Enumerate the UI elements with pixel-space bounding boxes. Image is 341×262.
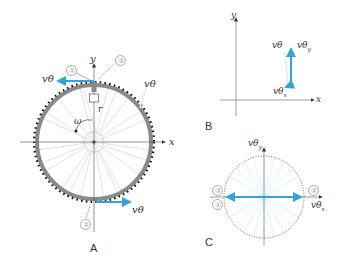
v-bottom-label: vθ [132,204,144,215]
c-marker-1: ① [212,199,223,210]
c-marker-3: ③ [212,185,223,196]
v-right-faint-vector [140,88,146,108]
b-v-label: vθ [272,40,283,50]
figure-canvas [0,0,341,262]
c-vy-label: vθy [248,138,262,150]
panel-b-components [220,18,314,116]
panel-a-label: A [90,242,97,254]
marker-2-leader [86,206,90,218]
marker-2: ② [80,219,91,230]
c-vx-label: vθx [311,200,325,212]
panel-c-label: C [205,236,213,248]
v-top-right-label: vθ [144,78,156,89]
b-v-resultant [285,52,288,85]
radius-box [90,94,99,102]
panel-b-label: B [205,120,212,132]
panel-c-projection [210,148,322,246]
b-x-axis-label: x [316,94,321,104]
marker-1-leader [74,72,90,80]
b-y-axis-label: y [231,10,236,20]
b-vy-label: vθy [297,40,311,52]
c-marker-2: ② [308,185,319,196]
v-top-left-label: vθ [42,73,54,84]
marker-3: ③ [115,55,126,66]
marker-1: ① [66,65,77,76]
b-vx-label: vθx [273,86,287,98]
omega-arrowhead [75,130,78,133]
a-y-axis-label: y [90,53,96,64]
radius-label: r [98,104,102,114]
marker-3-leader [98,62,116,80]
omega-label: ω [74,116,81,126]
a-x-axis-label: x [169,136,175,147]
radius-stem [92,82,97,92]
